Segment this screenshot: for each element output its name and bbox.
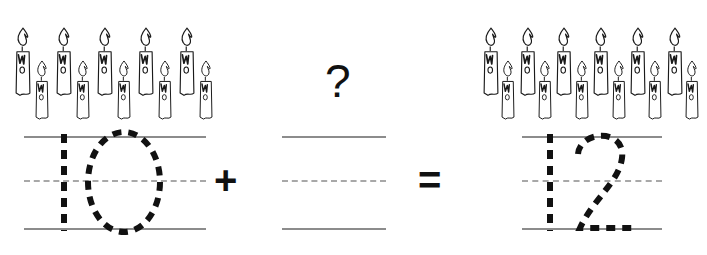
candle-flame (541, 61, 549, 76)
answer-blank-area (282, 136, 386, 229)
candle-flame (523, 28, 533, 45)
rule-top-line (282, 136, 386, 138)
writing-lines-first-addend (24, 136, 206, 229)
candle-flame (59, 28, 69, 45)
candle-flame (161, 61, 169, 76)
rule-bottom-line (24, 228, 206, 230)
candle-flame (202, 61, 210, 76)
candle-short (194, 59, 218, 125)
plus-operator: + (214, 160, 237, 200)
traced-numeral-10 (24, 136, 206, 229)
writing-lines-sum (522, 136, 662, 229)
rule-middle-line (282, 180, 386, 182)
rule-bottom-line (282, 228, 386, 230)
writing-lines-missing-addend[interactable] (282, 136, 386, 229)
equals-operator: = (418, 160, 441, 200)
candle-flame (100, 28, 110, 45)
candle-short (680, 59, 704, 125)
rule-middle-line (522, 180, 662, 182)
candle-flame (615, 61, 623, 76)
candle-flame (670, 28, 680, 45)
trace-stroke-zero (88, 132, 160, 232)
candle-group-first-addend (10, 0, 220, 125)
candle-flame (486, 28, 496, 45)
candle-flame (651, 61, 659, 76)
candle-flame (688, 61, 696, 76)
candle-flame (38, 61, 46, 76)
candle-flame (578, 61, 586, 76)
rule-top-line (24, 136, 206, 138)
candle-flame (633, 28, 643, 45)
candle-group-sum (478, 0, 706, 125)
candle-flame (79, 61, 87, 76)
traced-numeral-12 (522, 136, 662, 229)
rule-middle-line (24, 180, 206, 182)
worksheet-canvas: + ? = (0, 0, 707, 255)
candle-flame (182, 28, 192, 45)
candle-flame (120, 61, 128, 76)
candle-flame (559, 28, 569, 45)
rule-top-line (522, 136, 662, 138)
candle-flame (141, 28, 151, 45)
candle-flame (596, 28, 606, 45)
candle-flame (504, 61, 512, 76)
candle-flame (18, 28, 28, 45)
question-mark: ? (325, 58, 351, 104)
rule-bottom-line (522, 228, 662, 230)
